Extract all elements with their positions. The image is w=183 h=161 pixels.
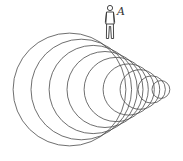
wavefront-circles — [13, 33, 170, 146]
wavefront-diagram — [0, 0, 183, 161]
wavefront-circle — [13, 33, 126, 146]
observer-label: A — [117, 5, 125, 18]
observer-figure-icon — [105, 5, 114, 38]
wavefront-circle — [31, 39, 132, 140]
